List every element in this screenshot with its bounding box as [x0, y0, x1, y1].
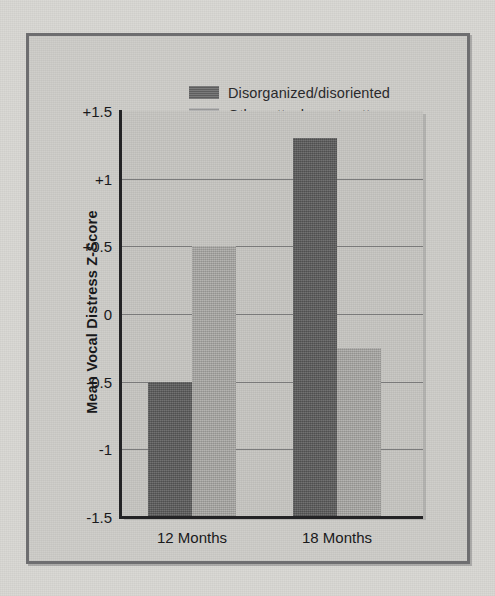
- y-axis-line: [119, 110, 122, 518]
- y-axis-title: Mean Vocal Distress Z-Score: [84, 187, 100, 437]
- bar-18-months-series-2[interactable]: [337, 348, 381, 517]
- y-tick-label: 0: [104, 306, 112, 323]
- bar-12-months-series-1[interactable]: [148, 382, 192, 517]
- legend-swatch-disorganized-icon: [189, 86, 219, 99]
- plot-wrapper: +1.5+1+0.50-0.5-1-1.5 12 Months18 Months: [121, 111, 423, 517]
- x-axis-line: [119, 516, 423, 519]
- y-tick-label: -0.5: [86, 373, 112, 390]
- bar-12-months-series-2[interactable]: [192, 246, 236, 517]
- legend-label-disorganized: Disorganized/disoriented: [228, 85, 390, 101]
- gridline: [121, 246, 423, 247]
- y-tick-label: -1.5: [86, 509, 112, 526]
- y-tick-label: +0.5: [82, 238, 112, 255]
- gridline: [121, 179, 423, 180]
- y-tick-label: +1: [95, 170, 112, 187]
- legend-item-disorganized[interactable]: Disorganized/disoriented: [189, 82, 479, 103]
- figure-frame: Disorganized/disoriented Other attachmen…: [26, 33, 470, 564]
- bar-18-months-series-1[interactable]: [293, 138, 337, 517]
- y-tick-label: -1: [99, 441, 112, 458]
- gridline: [121, 314, 423, 315]
- x-category-label-2: 18 Months: [302, 529, 372, 546]
- y-tick-label: +1.5: [82, 103, 112, 120]
- x-category-label-1: 12 Months: [157, 529, 227, 546]
